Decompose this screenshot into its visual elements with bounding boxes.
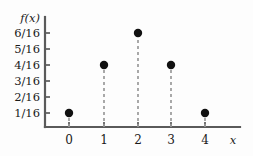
- data-point-marker: [201, 109, 209, 117]
- x-tick-label: 1: [100, 133, 108, 147]
- y-tick-label: 6/16: [14, 26, 40, 40]
- y-tick-label: 1/16: [14, 106, 40, 120]
- y-tick-label: 5/16: [14, 42, 40, 56]
- x-tick-label: 0: [65, 133, 73, 147]
- x-tick-label: 2: [134, 133, 142, 147]
- stem-plot-svg: 1/162/163/164/165/166/16 01234 f(x) x: [0, 0, 253, 156]
- x-tick-label: 3: [167, 133, 175, 147]
- axes-group: [45, 17, 240, 127]
- data-point-marker: [100, 61, 108, 69]
- data-point-marker: [167, 61, 175, 69]
- x-tick-labels-group: 01234: [65, 133, 209, 147]
- x-tick-label: 4: [201, 133, 209, 147]
- y-tick-label: 3/16: [14, 74, 40, 88]
- data-point-marker: [134, 29, 142, 37]
- x-axis-title: x: [230, 133, 237, 147]
- stems-group: [69, 33, 205, 127]
- data-point-marker: [65, 109, 73, 117]
- y-tick-label: 4/16: [14, 58, 40, 72]
- y-tick-label: 2/16: [14, 90, 40, 104]
- y-tick-labels-group: 1/162/163/164/165/166/16: [14, 26, 40, 120]
- data-points-group: [65, 29, 209, 117]
- y-axis-title: f(x): [19, 11, 40, 25]
- probability-mass-function-chart: 1/162/163/164/165/166/16 01234 f(x) x: [0, 0, 253, 156]
